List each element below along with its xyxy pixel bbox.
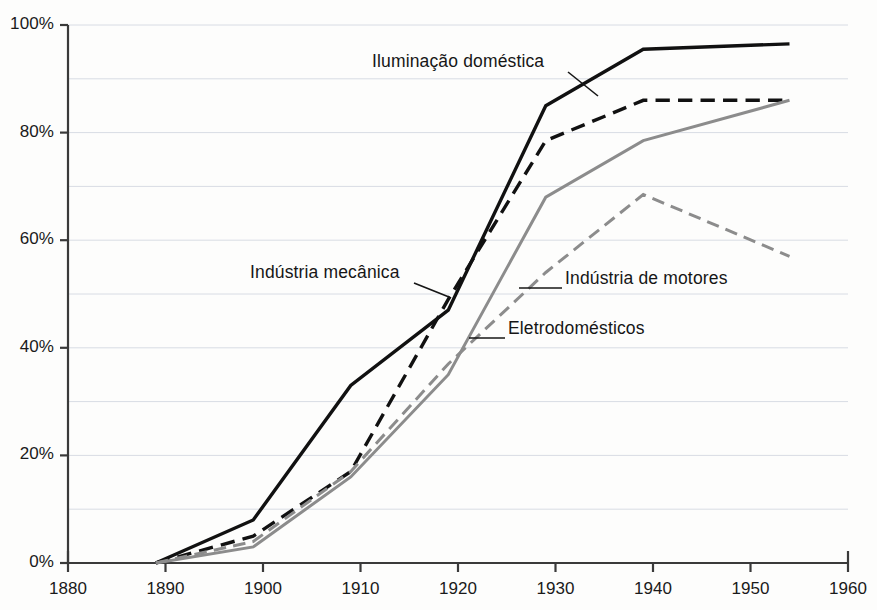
- line-chart: 0%20%40%60%80%100% 188018901900191019201…: [0, 0, 877, 610]
- chart-canvas: [0, 0, 877, 610]
- y-tick-label: 60%: [0, 229, 54, 249]
- series-label-4: Eletrodomésticos: [508, 318, 645, 339]
- y-tick-label: 80%: [0, 122, 54, 142]
- gridlines: [68, 25, 848, 563]
- data-series: [156, 44, 790, 563]
- y-tick-label: 0%: [0, 552, 54, 572]
- series-label-1: Iluminação doméstica: [372, 51, 544, 72]
- leader-line-2: [414, 283, 449, 297]
- x-tick-label: 1880: [28, 579, 108, 599]
- x-tick-label: 1950: [711, 579, 791, 599]
- x-tick-label: 1920: [418, 579, 498, 599]
- x-tick-label: 1960: [808, 579, 877, 599]
- series-label-2: Indústria mecânica: [250, 262, 400, 283]
- series-line-4: [156, 194, 790, 563]
- y-tick-label: 40%: [0, 337, 54, 357]
- series-label-3: Indústria de motores: [565, 268, 728, 289]
- y-tick-label: 20%: [0, 444, 54, 464]
- x-tick-label: 1940: [613, 579, 693, 599]
- series-line-1: [156, 44, 790, 563]
- x-tick-label: 1890: [126, 579, 206, 599]
- series-line-3: [156, 100, 790, 563]
- x-tick-label: 1930: [516, 579, 596, 599]
- leader-line-1: [568, 72, 598, 96]
- x-tick-label: 1910: [321, 579, 401, 599]
- x-tick-label: 1900: [223, 579, 303, 599]
- y-tick-label: 100%: [0, 14, 54, 34]
